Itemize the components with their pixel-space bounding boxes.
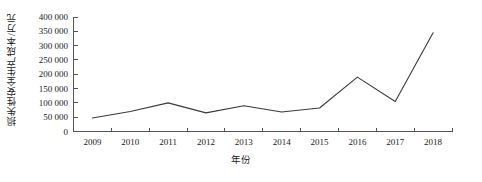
x-axis-tick-label: 2017 [386,138,404,147]
chart-figure: 损失性安全生产成本/万元 050 000100 000150 000200 00… [0,0,482,182]
x-axis-tick-label: 2016 [348,138,366,147]
x-axis-tick-label: 2009 [83,138,101,147]
x-axis-tick-label: 2013 [235,138,253,147]
x-axis-tick-label: 2015 [311,138,329,147]
x-axis-tick-label: 2014 [273,138,291,147]
x-axis-tick-label: 2011 [159,138,177,147]
x-axis-tick-label: 2010 [121,138,139,147]
x-axis-tick-label: 2018 [424,138,442,147]
x-axis-title: 年份 [0,152,482,166]
x-axis-tick-label: 2012 [197,138,215,147]
